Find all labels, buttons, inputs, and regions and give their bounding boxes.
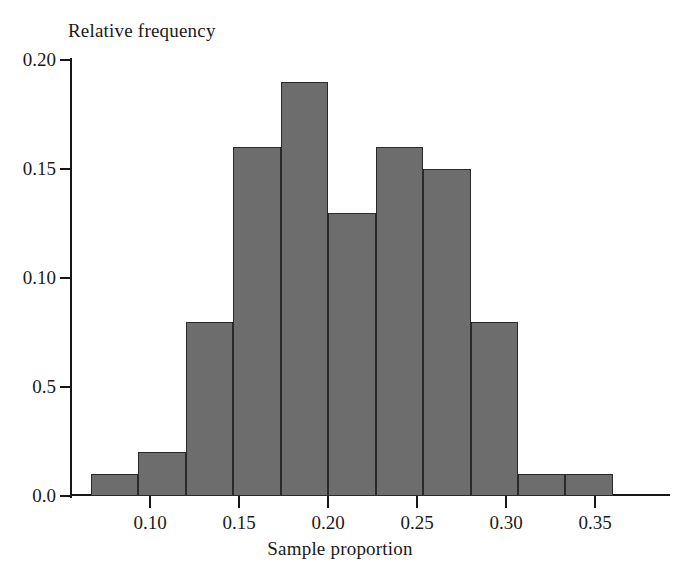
x-tick-mark [238,496,240,508]
x-tick-label: 0.15 [199,512,279,534]
y-tick-label: 0.20 [2,49,56,71]
x-tick-mark [416,496,418,508]
histogram-bar [565,474,613,496]
x-tick-mark [505,496,507,508]
histogram-bar [423,169,471,496]
x-tick-label: 0.30 [466,512,546,534]
y-tick-label: 0.0 [2,485,56,507]
histogram-chart: Relative frequency 0.200.150.100.50.0 0.… [0,0,680,568]
x-tick-label: 0.20 [288,512,368,534]
histogram-bar [91,474,138,496]
histogram-bar [138,452,186,496]
x-tick-mark [327,496,329,508]
histogram-bar [376,147,423,496]
histogram-bar [471,322,519,496]
histogram-bar [233,147,280,496]
x-tick-mark [149,496,151,508]
histogram-bars [70,60,670,496]
y-tick-label: 0.15 [2,158,56,180]
y-tick-label: 0.10 [2,267,56,289]
x-tick-mark [594,496,596,508]
histogram-bar [281,82,329,496]
x-tick-label: 0.10 [110,512,190,534]
histogram-bar [328,213,376,496]
histogram-bar [186,322,234,496]
y-axis-title: Relative frequency [68,20,216,42]
x-tick-label: 0.35 [555,512,635,534]
x-axis-title: Sample proportion [0,538,680,560]
histogram-bar [518,474,565,496]
x-tick-label: 0.25 [377,512,457,534]
y-tick-label: 0.5 [2,376,56,398]
